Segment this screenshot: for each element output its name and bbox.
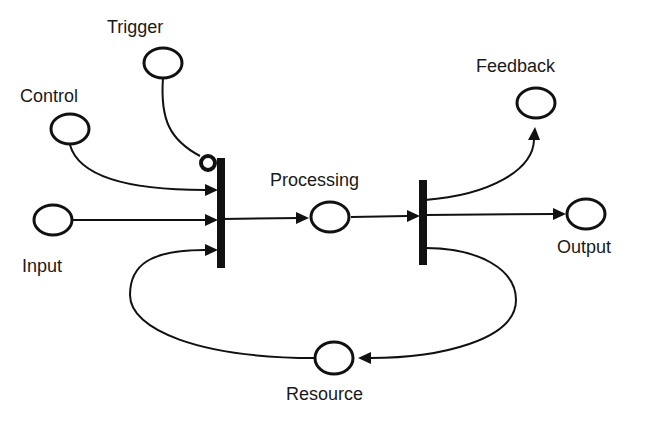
- place-trigger: [144, 48, 182, 78]
- label-resource: Resource: [286, 384, 363, 404]
- arrow-feedback-icon: [528, 127, 540, 140]
- place-control: [51, 114, 89, 144]
- arc-t2-feedback: [425, 140, 534, 200]
- arrow-processing-icon: [296, 212, 309, 224]
- arrow-resource-icon: [358, 352, 371, 364]
- label-output: Output: [557, 237, 611, 257]
- label-trigger: Trigger: [107, 17, 163, 37]
- arc-trigger-t1: [162, 78, 200, 156]
- label-input: Input: [22, 256, 62, 276]
- petri-net-diagram: Trigger Control Input Processing Feedbac…: [0, 0, 647, 424]
- label-control: Control: [20, 86, 78, 106]
- arrow-output-icon: [553, 208, 566, 220]
- inhibitor-icon: [201, 156, 215, 170]
- arc-t2-output: [425, 214, 555, 215]
- arc-t1-processing: [222, 218, 300, 219]
- arrow-resource-in-icon: [205, 244, 218, 256]
- arrow-input-icon: [205, 214, 218, 226]
- place-output: [567, 199, 605, 229]
- transition-t2: [419, 180, 427, 265]
- arc-t2-resource: [370, 248, 516, 358]
- place-feedback: [517, 88, 555, 118]
- arrow-t2-in-icon: [407, 210, 420, 222]
- place-resource: [315, 342, 353, 374]
- place-processing: [311, 202, 349, 232]
- place-input: [34, 205, 72, 235]
- arc-control-t1: [70, 145, 205, 190]
- transition-t1: [217, 158, 225, 268]
- arrow-control-icon: [205, 184, 218, 196]
- label-feedback: Feedback: [476, 56, 556, 76]
- arc-processing-t2: [351, 216, 408, 217]
- label-processing: Processing: [270, 170, 359, 190]
